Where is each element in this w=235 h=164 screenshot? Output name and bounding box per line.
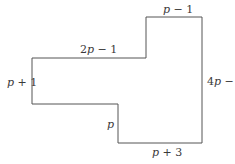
label-top-left: 2p − 1 xyxy=(80,43,117,56)
shape-outline xyxy=(32,17,202,143)
label-top-right: p − 1 xyxy=(163,3,193,16)
label-inner: p xyxy=(107,118,114,131)
label-left: p + 1 xyxy=(7,76,37,89)
label-right: 4p − 2 xyxy=(207,75,235,88)
diagram-canvas: p − 1 2p − 1 p + 1 4p − 2 p p + 3 xyxy=(0,0,235,164)
label-bottom: p + 3 xyxy=(152,146,182,159)
